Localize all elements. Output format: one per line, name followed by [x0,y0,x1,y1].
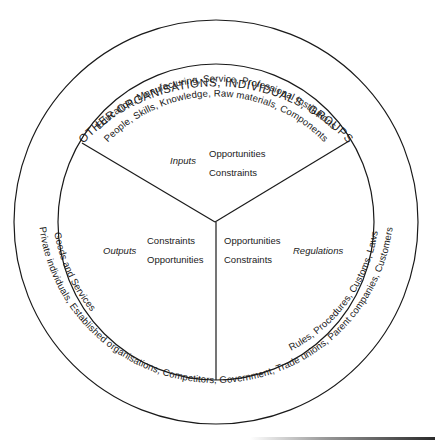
regulations-opportunities: Opportunities [224,235,281,246]
inputs-constraints: Constraints [209,167,257,178]
systems-diagram: OTHER ORGANISATIONS, INDIVIDUALS, GROUPS… [0,0,435,440]
outputs-opportunities: Opportunities [147,254,204,265]
regulations-title: Regulations [293,245,343,256]
inputs-opportunities: Opportunities [209,148,266,159]
outputs-constraints: Constraints [147,235,195,246]
regulations-constraints: Constraints [224,254,272,265]
outputs-title: Outputs [103,245,137,256]
inputs-title: Inputs [170,155,196,166]
